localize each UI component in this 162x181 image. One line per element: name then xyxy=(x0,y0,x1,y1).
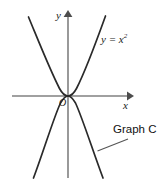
y-axis-label: y xyxy=(56,10,61,21)
graph-c-leader-line xyxy=(98,139,129,151)
equation-label: y = x2 xyxy=(101,34,127,45)
origin-label: O xyxy=(59,98,66,108)
x-axis-arrowhead xyxy=(127,92,134,101)
y-axis-arrowhead xyxy=(64,10,73,17)
coordinate-plane xyxy=(0,0,162,181)
x-axis-label: x xyxy=(123,100,128,111)
curve-y-equals-x-squared xyxy=(29,16,106,96)
equation-label-base: y = x xyxy=(101,33,124,45)
equation-label-exponent: 2 xyxy=(124,32,128,40)
graph-figure: y x O y = x2 Graph C xyxy=(0,0,162,181)
graph-c-callout-label: Graph C xyxy=(113,124,156,136)
